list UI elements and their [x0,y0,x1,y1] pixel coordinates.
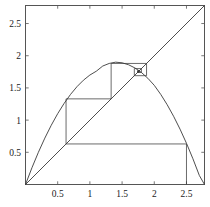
x-tick-label: 1 [88,189,93,199]
plot-canvas: 0.511.522.5 0.511.522.5 [0,0,210,207]
x-tick-label: 2.5 [181,189,193,199]
y-axis-tick-labels: 0.511.522.5 [9,19,21,158]
y-tick-label: 0.5 [9,148,21,158]
cobweb-plot-figure: 0.511.522.5 0.511.522.5 [0,0,210,207]
x-tick-label: 2 [152,189,157,199]
x-tick-label: 1.5 [116,189,128,199]
x-axis-tick-labels: 0.511.522.5 [52,189,193,199]
y-tick-label: 2 [16,51,21,61]
x-tick-label: 0.5 [52,189,64,199]
y-tick-label: 1 [16,116,21,126]
y-tick-label: 2.5 [9,19,21,29]
y-tick-label: 1.5 [9,83,21,93]
